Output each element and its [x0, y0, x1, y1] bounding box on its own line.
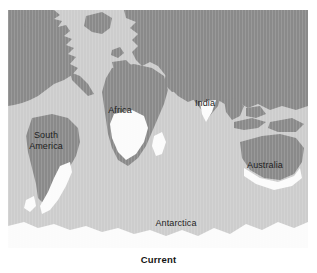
world-map-graphic: [8, 10, 308, 248]
figure-caption: Current: [0, 254, 317, 265]
world-map-figure: South America Africa India Australia Ant…: [0, 0, 317, 273]
map-panel: South America Africa India Australia Ant…: [8, 10, 308, 248]
